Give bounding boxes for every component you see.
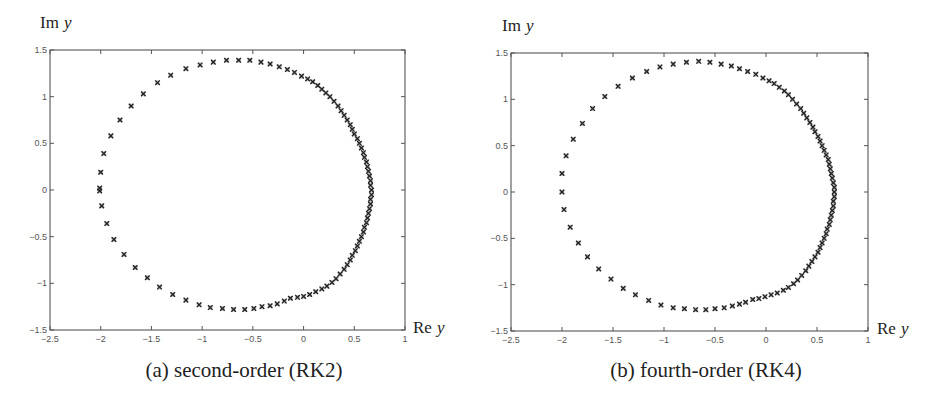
data-point — [781, 288, 786, 293]
data-point — [105, 221, 110, 226]
data-point — [646, 298, 651, 303]
data-point — [794, 102, 799, 107]
x-tick-label: −1 — [197, 334, 207, 344]
data-point — [786, 285, 791, 290]
data-point — [328, 94, 333, 99]
data-point — [220, 306, 225, 311]
y-tick-label: 0.5 — [34, 138, 47, 148]
data-point — [745, 69, 750, 74]
data-point — [155, 80, 160, 85]
data-point — [231, 307, 236, 312]
data-point — [816, 134, 821, 139]
data-point — [368, 183, 373, 188]
data-point — [345, 118, 350, 123]
data-point — [365, 216, 370, 221]
data-point — [801, 111, 806, 116]
x-tick-label: 1 — [402, 334, 407, 344]
data-point — [368, 178, 373, 183]
data-point — [763, 294, 768, 299]
data-point — [737, 302, 742, 307]
data-point — [693, 307, 698, 312]
data-points — [97, 58, 373, 312]
data-point — [336, 104, 341, 109]
data-point — [301, 294, 306, 299]
data-point — [211, 60, 216, 65]
data-point — [750, 297, 755, 302]
data-point — [282, 299, 287, 304]
panel-rk2: Imy −2.5−2−1.5−1−0.500.51 −1.5−1−0.500.5… — [29, 13, 445, 382]
data-point — [818, 245, 823, 250]
data-point — [292, 70, 297, 75]
data-point — [368, 197, 373, 202]
data-point — [808, 120, 813, 125]
data-point — [357, 239, 362, 244]
data-point — [364, 220, 369, 225]
data-point — [822, 148, 827, 153]
data-point — [828, 167, 833, 172]
data-point — [361, 230, 366, 235]
data-point — [810, 259, 815, 264]
data-point — [832, 185, 837, 190]
data-point — [268, 303, 273, 308]
data-point — [590, 106, 595, 111]
data-point — [813, 129, 818, 134]
data-point — [820, 143, 825, 148]
data-point — [813, 255, 818, 260]
y-tick-label: −1 — [498, 280, 508, 290]
data-point — [807, 264, 812, 269]
data-point — [831, 180, 836, 185]
data-point — [644, 69, 649, 74]
x-tick-label: 0 — [763, 335, 768, 345]
data-point — [350, 127, 355, 132]
data-point — [730, 304, 735, 309]
data-point — [112, 237, 117, 242]
data-point — [609, 277, 614, 282]
y-tick-label: 0.5 — [495, 141, 508, 151]
data-point — [310, 79, 315, 84]
data-point — [168, 73, 173, 78]
data-point — [345, 262, 350, 267]
data-point — [101, 151, 106, 156]
data-point — [242, 307, 247, 312]
data-point — [141, 92, 146, 97]
data-point — [320, 287, 325, 292]
data-point — [805, 116, 810, 121]
data-point — [658, 65, 663, 70]
data-point — [364, 160, 369, 165]
data-point — [98, 170, 103, 175]
data-point — [803, 268, 808, 273]
data-point — [97, 189, 102, 194]
data-point — [754, 72, 759, 77]
figure: Imy −2.5−2−1.5−1−0.500.51 −1.5−1−0.500.5… — [0, 0, 949, 403]
x-tick-label: 0.5 — [348, 334, 361, 344]
x-tick-label: −0.5 — [244, 334, 262, 344]
data-point — [696, 59, 701, 64]
data-point — [133, 265, 138, 270]
data-point — [761, 76, 766, 81]
data-point — [822, 236, 827, 241]
data-point — [236, 58, 241, 63]
y-tick-label: −1.5 — [29, 325, 47, 335]
y-tick-label: 1.5 — [495, 48, 508, 58]
x-tick-label: −2.5 — [41, 334, 59, 344]
data-point — [560, 171, 565, 176]
data-point — [743, 300, 748, 305]
data-point — [260, 304, 265, 309]
data-point — [621, 286, 626, 291]
y-ticks: −1.5−1−0.500.511.5 — [29, 45, 405, 335]
y-tick-label: 0 — [42, 185, 47, 195]
data-point — [170, 292, 175, 297]
y-tick-label: −0.5 — [490, 233, 508, 243]
data-point — [828, 218, 833, 223]
caption: (a) second-order (RK2) — [145, 358, 342, 382]
data-point — [671, 306, 676, 311]
data-point — [145, 275, 150, 280]
data-point — [275, 302, 280, 307]
data-point — [248, 58, 253, 63]
data-point — [682, 306, 687, 311]
plot-frame — [511, 53, 868, 331]
data-points — [560, 59, 837, 312]
data-point — [633, 293, 638, 298]
data-point — [368, 202, 373, 207]
data-point — [352, 132, 357, 137]
